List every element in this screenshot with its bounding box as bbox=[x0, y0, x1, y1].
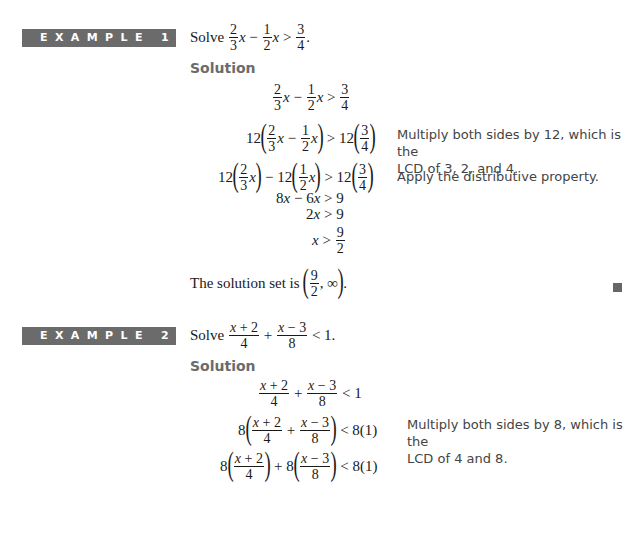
example-2-problem: Solve x + 24 + x − 38 < 1. bbox=[190, 320, 335, 351]
example-2-step-3: 8(x + 24) + 8(x − 38) < 8(1) bbox=[220, 449, 377, 483]
example-2-solution-label: Solution bbox=[190, 358, 256, 374]
example-2-note-1: Multiply both sides by 8, which is the L… bbox=[407, 416, 644, 467]
example-1-step-4: 8x − 6x > 9 bbox=[276, 190, 344, 207]
example-1-conclusion: The solution set is ( 92, ∞). bbox=[190, 266, 347, 300]
fraction: 12 bbox=[263, 22, 272, 53]
example-1-step-6: x > 92 bbox=[312, 225, 346, 256]
fraction: 23 bbox=[229, 22, 238, 53]
fraction: 34 bbox=[296, 22, 305, 53]
example-1-solution-label: Solution bbox=[190, 60, 256, 76]
example-1-step-5: 2x > 9 bbox=[306, 206, 344, 223]
solve-word: Solve bbox=[190, 29, 224, 46]
end-of-example-square bbox=[613, 283, 622, 292]
example-2-banner: EXAMPLE 2 bbox=[22, 327, 176, 345]
solve-word: Solve bbox=[190, 327, 224, 344]
example-2-step-1: x + 24 + x − 38 < 1 bbox=[258, 378, 362, 409]
example-2-step-2: 8( x + 24 + x − 38) < 8(1) bbox=[238, 413, 377, 447]
example-1-note-2: Apply the distributive property. bbox=[397, 168, 599, 185]
example-1-banner: EXAMPLE 1 bbox=[22, 29, 176, 47]
example-1-step-1: 23x − 12x > 34 bbox=[272, 82, 350, 113]
example-1-step-2: 12( 23x − 12x) > 12( 34) bbox=[246, 121, 376, 155]
example-1-step-3: 12(23x) − 12(12x) > 12(34) bbox=[218, 160, 373, 194]
example-1-problem: Solve 23 x − 12 x > 34 . bbox=[190, 22, 310, 53]
